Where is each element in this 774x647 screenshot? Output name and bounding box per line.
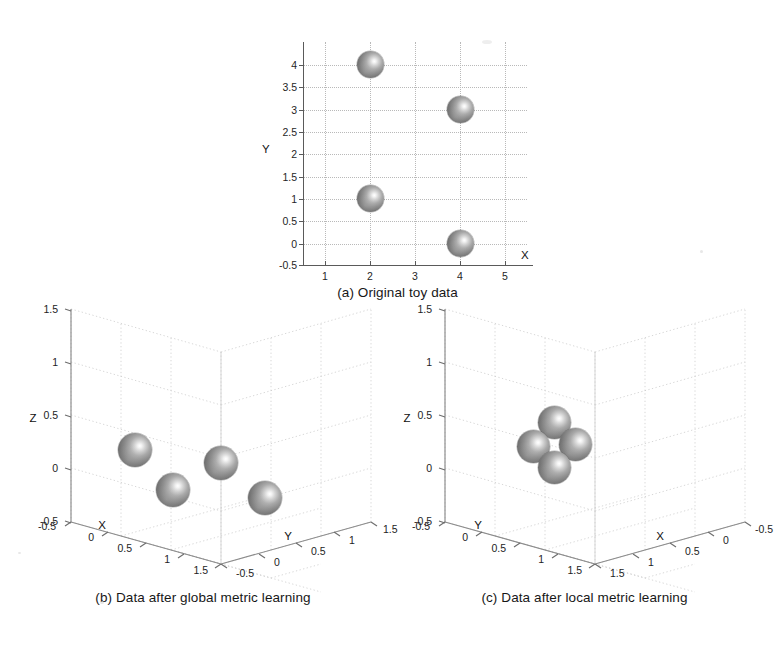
panel-c-ztick-0p5: 0.5	[417, 409, 432, 421]
panel-b-global-metric-learning: 1.5 1 0.5 0 -0.5 Z -0.5 0 0.5 1 1.5 X -0…	[8, 300, 398, 600]
panel-b-caption: (b) Data after global metric learning	[33, 590, 373, 605]
panel-c-z-ticks	[439, 309, 445, 523]
data-point-sphere	[118, 433, 152, 467]
panel-c-ztick-0: 0	[426, 462, 432, 474]
panel-c-caption: (c) Data after local metric learning	[417, 590, 752, 605]
panel-b-xtick-0p5: 0.5	[117, 542, 132, 554]
panel-c-xtick-1: 1	[648, 556, 654, 568]
panel-b-ytick-neg0p5: -0.5	[236, 567, 254, 579]
panel-a-y-axis-label: Y	[262, 143, 270, 155]
panel-b-x-axis-label: X	[98, 519, 106, 531]
panel-b-ztick-0: 0	[52, 462, 58, 474]
data-point-sphere	[357, 51, 384, 78]
panel-c-ytick-1: 1	[538, 553, 544, 565]
data-point-sphere	[538, 451, 571, 484]
panel-b-xtick-1p5: 1.5	[193, 564, 208, 576]
data-point-sphere	[248, 481, 282, 515]
scan-speckle	[700, 250, 703, 253]
panel-c-ytick-0p5: 0.5	[491, 542, 506, 554]
panel-a-x-axis-label: X	[521, 249, 529, 261]
panel-b-3d-axes: 1.5 1 0.5 0 -0.5 Z -0.5 0 0.5 1 1.5 X -0…	[8, 300, 398, 600]
panel-c-y-ticks	[439, 522, 595, 568]
panel-b-xtick-neg0p5: -0.5	[38, 520, 56, 532]
panel-b-ztick-0p5: 0.5	[43, 409, 58, 421]
scan-speckle	[100, 601, 104, 604]
panel-c-local-metric-learning: 1.5 1 0.5 0 -0.5 Z -0.5 0 0.5 1 1.5 Y 1.…	[392, 300, 774, 600]
panel-c-xtick-1p5: 1.5	[610, 567, 625, 579]
panel-a-xtick-3: 3	[401, 270, 429, 282]
panel-a-ytick-1: 1	[259, 193, 297, 205]
panel-b-ytick-0: 0	[274, 556, 280, 568]
panel-b-y-axis-label: Y	[284, 530, 292, 542]
data-point-sphere	[447, 96, 474, 123]
panel-c-xtick-neg0p5: -0.5	[755, 523, 773, 535]
data-point-sphere	[357, 185, 384, 212]
panel-c-ytick-neg0p5: -0.5	[412, 520, 430, 532]
panel-a-ytick-0p5: 0.5	[259, 215, 297, 227]
panel-c-xtick-0: 0	[723, 534, 729, 546]
panel-b-z-axis-label: Z	[29, 412, 36, 424]
panel-b-xtick-0: 0	[88, 531, 94, 543]
panel-c-z-axis-label: Z	[403, 412, 410, 424]
panel-a-ytick-2p5: 2.5	[259, 126, 297, 138]
panel-b-xtick-1: 1	[164, 553, 170, 565]
panel-c-axis-edges	[445, 309, 745, 564]
panel-a-ytick-neg0p5: -0.5	[256, 259, 297, 271]
panel-b-axis-edges	[71, 309, 371, 564]
panel-a-xtick-5: 5	[491, 270, 519, 282]
panel-c-x-axis-label: X	[656, 530, 664, 542]
panel-a-ytick-3: 3	[259, 104, 297, 116]
panel-c-ztick-1: 1	[426, 356, 432, 368]
panel-a-original-toy-data: 4 3.5 3 2.5 2 1.5 1 0.5 0 -0.5 1 2 3 4 5…	[255, 30, 540, 280]
panel-b-x-ticks	[65, 522, 221, 568]
panel-a-x-axis-line	[303, 265, 533, 266]
panel-a-xtick-4: 4	[446, 270, 474, 282]
data-point-sphere	[204, 446, 238, 480]
panel-a-caption: (a) Original toy data	[275, 285, 520, 300]
scan-speckle	[18, 552, 21, 554]
data-point-sphere	[447, 230, 474, 257]
panel-a-xtick-2: 2	[356, 270, 384, 282]
panel-c-ytick-0: 0	[462, 531, 468, 543]
panel-c-y-axis-label: Y	[474, 519, 482, 531]
data-point-sphere	[156, 473, 190, 507]
panel-a-xtick-1: 1	[311, 270, 339, 282]
figure-metric-learning-toy-data: 4 3.5 3 2.5 2 1.5 1 0.5 0 -0.5 1 2 3 4 5…	[0, 0, 774, 647]
panel-b-ytick-1: 1	[349, 534, 355, 546]
panel-b-ytick-0p5: 0.5	[311, 545, 326, 557]
panel-c-ztick-1p5: 1.5	[417, 303, 432, 315]
panel-a-ytick-3p5: 3.5	[259, 81, 297, 93]
panel-a-ytick-1p5: 1.5	[259, 171, 297, 183]
panel-b-ztick-1p5: 1.5	[43, 303, 58, 315]
panel-a-ytick-0: 0	[259, 238, 297, 250]
panel-a-ytick-4: 4	[259, 59, 297, 71]
scan-speckle	[482, 40, 492, 44]
panel-c-ytick-1p5: 1.5	[567, 564, 582, 576]
panel-b-z-ticks	[65, 309, 71, 523]
panel-c-xtick-0p5: 0.5	[685, 545, 700, 557]
panel-b-ztick-1: 1	[52, 356, 58, 368]
